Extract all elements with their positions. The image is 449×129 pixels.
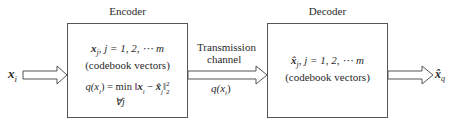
output-label: x̂q xyxy=(435,67,445,83)
decoder-codebook-line: x̂j, j = 1, 2, ⋯ m xyxy=(268,54,387,69)
decoder-title: Decoder xyxy=(267,5,388,17)
encoder-codebook-note: (codebook vectors) xyxy=(68,59,187,71)
decoder-codebook-note: (codebook vectors) xyxy=(268,71,387,83)
encoder-codebook-line: xj, j = 1, 2, ⋯ m xyxy=(68,42,187,57)
channel-label-line2: channel xyxy=(207,53,241,65)
output-arrow xyxy=(388,64,434,86)
channel-signal: q(xi) xyxy=(211,82,231,97)
encoder-title: Encoder xyxy=(67,5,188,17)
channel-label-line1: Transmission xyxy=(197,41,256,53)
input-arrow xyxy=(22,64,68,86)
encoder-formula-forall: ∀j xyxy=(115,96,125,107)
encoder-formula: q(xi) = min ‖xi − x̂j‖22 xyxy=(68,80,187,96)
encoder-box: xj, j = 1, 2, ⋯ m (codebook vectors) q(x… xyxy=(67,23,188,118)
decoder-box: x̂j, j = 1, 2, ⋯ m (codebook vectors) xyxy=(267,23,388,118)
input-label: xi xyxy=(8,66,17,84)
